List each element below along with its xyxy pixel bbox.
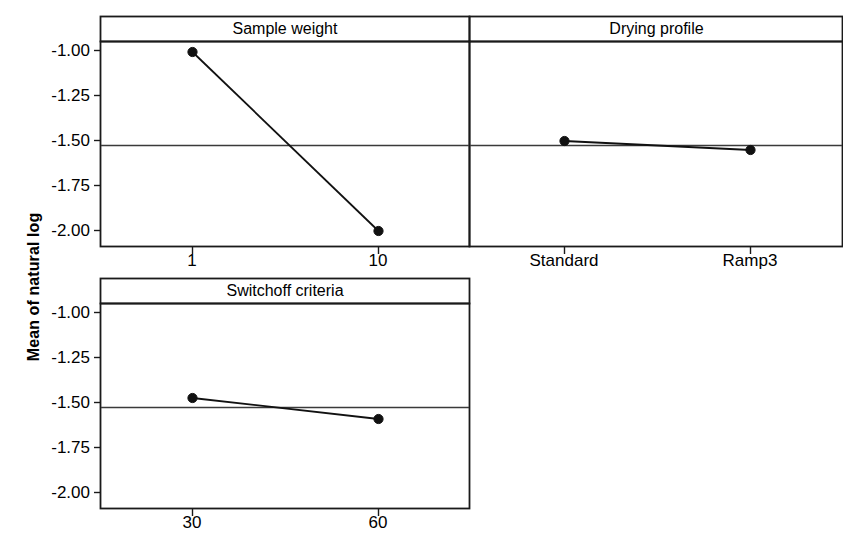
main-effects-plot: Mean of natural log Sample weight Drying… (0, 0, 843, 548)
series-line-switchoff-criteria (193, 398, 379, 419)
panel-header-box-switchoff-criteria (101, 279, 470, 304)
panel-plot-box-sample-weight (101, 42, 470, 247)
data-point-sample-weight-2 (374, 226, 383, 235)
series-line-sample-weight (193, 52, 379, 231)
data-point-sample-weight-1 (188, 47, 197, 56)
data-point-switchoff-criteria-1 (188, 393, 197, 402)
chart-drawing-layer (0, 0, 843, 548)
x-axis-ticks-drying-profile (565, 247, 751, 254)
panel-plot-box-switchoff-criteria (101, 304, 470, 509)
panel-plot-box-drying-profile (470, 42, 843, 247)
series-switchoff-criteria (188, 393, 383, 423)
panel-header-box-drying-profile (470, 17, 843, 42)
data-point-switchoff-criteria-2 (374, 414, 383, 423)
x-axis-ticks-sample-weight (193, 247, 379, 254)
x-axis-ticks-switchoff-criteria (193, 509, 379, 516)
data-point-drying-profile-2 (746, 145, 755, 154)
panel-header-box-sample-weight (101, 17, 470, 42)
data-point-drying-profile-1 (560, 136, 569, 145)
series-sample-weight (188, 47, 383, 235)
